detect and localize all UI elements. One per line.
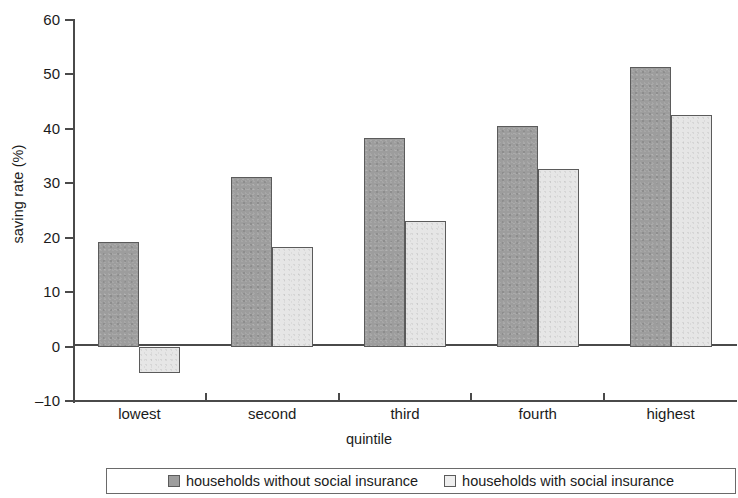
bar-chart-figure: saving rate (%) 6050403020100–10 lowests… — [0, 0, 738, 498]
legend: households without social insurance hous… — [106, 468, 736, 494]
y-axis-tick-label: 50 — [0, 66, 60, 81]
bar-second-series2 — [272, 247, 313, 347]
legend-item-without-social-insurance: households without social insurance — [168, 473, 418, 489]
x-axis-tick — [470, 393, 472, 402]
y-axis-tick-label: 30 — [0, 175, 60, 190]
y-axis-tick — [65, 182, 74, 184]
y-axis-tick-label: 10 — [0, 284, 60, 299]
x-axis-tick — [205, 393, 207, 402]
bar-third-series1 — [364, 138, 405, 346]
y-axis-tick — [65, 291, 74, 293]
bar-lowest-series2 — [139, 347, 180, 374]
y-axis-tick-label: 0 — [0, 339, 60, 354]
x-axis-tick-label-lowest: lowest — [73, 405, 206, 422]
x-axis-tick — [603, 393, 605, 402]
x-axis-title: quintile — [0, 431, 738, 447]
x-axis-tick-label-third: third — [339, 405, 472, 422]
light-swatch-icon — [444, 475, 456, 487]
x-axis-line — [73, 400, 737, 402]
y-axis-tick-label: 40 — [0, 121, 60, 136]
legend-label-with-social-insurance: households with social insurance — [462, 473, 674, 489]
x-axis-tick-label-fourth: fourth — [471, 405, 604, 422]
x-axis-tick-label-second: second — [206, 405, 339, 422]
bar-second-series1 — [231, 177, 272, 347]
bar-fourth-series2 — [538, 169, 579, 346]
y-axis-tick — [65, 19, 74, 21]
x-axis-tick-label-highest: highest — [604, 405, 737, 422]
dark-swatch-icon — [168, 475, 180, 487]
y-axis-tick — [65, 128, 74, 130]
bar-highest-series2 — [671, 115, 712, 346]
y-axis-tick-label: 20 — [0, 230, 60, 245]
y-axis-tick-label: 60 — [0, 12, 60, 27]
bar-lowest-series1 — [98, 242, 139, 347]
y-axis-tick — [65, 73, 74, 75]
bar-highest-series1 — [630, 67, 671, 346]
y-axis-tick — [65, 400, 74, 402]
y-axis-tick-label: –10 — [0, 393, 60, 408]
bar-fourth-series1 — [497, 126, 538, 347]
legend-label-without-social-insurance: households without social insurance — [186, 473, 418, 489]
x-axis-tick — [338, 393, 340, 402]
y-axis-tick — [65, 346, 74, 348]
y-axis-title: saving rate (%) — [10, 114, 26, 274]
legend-item-with-social-insurance: households with social insurance — [444, 473, 674, 489]
y-axis-tick — [65, 237, 74, 239]
bar-third-series2 — [405, 221, 446, 347]
